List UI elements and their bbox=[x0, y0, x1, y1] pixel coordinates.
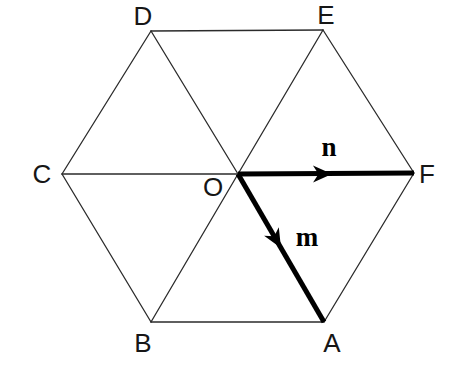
hexagon-svg-canvas bbox=[0, 0, 454, 373]
vertex-label-E: E bbox=[317, 2, 334, 28]
vector-label-n: n bbox=[321, 134, 336, 161]
edge-EF bbox=[323, 30, 414, 173]
vertex-label-B: B bbox=[134, 330, 151, 356]
vertex-label-D: D bbox=[134, 3, 153, 29]
diagonal-D-O bbox=[151, 31, 238, 174]
vector-label-m: m bbox=[296, 224, 319, 251]
hexagon-vector-diagram: A B C D E F O n m bbox=[0, 0, 454, 373]
vertex-label-A: A bbox=[323, 330, 340, 356]
vertex-label-F: F bbox=[419, 161, 435, 187]
edge-BC bbox=[62, 174, 151, 322]
vertex-label-C: C bbox=[33, 161, 52, 187]
edge-FA bbox=[324, 173, 414, 322]
vector-group bbox=[238, 166, 414, 322]
centre-label-O: O bbox=[203, 174, 223, 200]
edge-DE bbox=[151, 30, 323, 31]
edge-CD bbox=[62, 31, 151, 174]
diagonal-E-O bbox=[238, 30, 323, 174]
diagonal-B-O bbox=[151, 174, 238, 322]
